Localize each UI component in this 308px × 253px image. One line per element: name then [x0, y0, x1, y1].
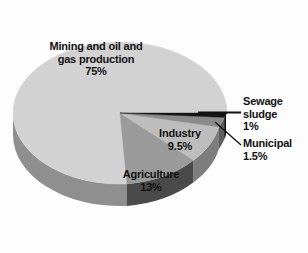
slice-value-text: 1% — [243, 120, 307, 133]
pie-chart-figure: Mining and oil and gas production 75% In… — [0, 0, 308, 253]
slice-label-line-1: Industry — [143, 127, 217, 140]
slice-label-line-1: Sewage — [243, 95, 307, 108]
slice-label-line-2: sludge — [243, 108, 307, 121]
slice-label-sewage-sludge: Sewage sludge 1% — [243, 95, 307, 133]
slice-label-line-1: Mining and oil and — [37, 40, 155, 53]
slice-label-municipal: Municipal 1.5% — [243, 137, 307, 162]
slice-label-line-1: Agriculture — [107, 168, 195, 181]
slice-label-mining-and-oil-and-gas-production: Mining and oil and gas production 75% — [37, 40, 155, 78]
slice-value-text: 1.5% — [243, 150, 307, 163]
slice-value-text: 75% — [37, 65, 155, 78]
slice-label-industry: Industry 9.5% — [143, 127, 217, 152]
slice-label-agriculture: Agriculture 13% — [107, 168, 195, 193]
slice-value-text: 9.5% — [143, 140, 217, 153]
slice-value-text: 13% — [107, 181, 195, 194]
slice-label-line-1: Municipal — [243, 137, 307, 150]
slice-label-line-2: gas production — [37, 53, 155, 66]
